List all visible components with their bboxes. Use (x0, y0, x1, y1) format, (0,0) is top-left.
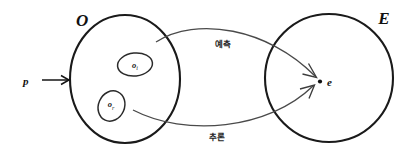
subset-o-i-label: oi (132, 60, 138, 72)
evidence-set-label: E (377, 9, 389, 28)
subset-o-r-subscript: r (112, 105, 115, 111)
diagram-canvas: --> O E e p oi or 예측 추론 (0, 0, 415, 155)
diagram-container: --> O E e p oi or 예측 추론 (0, 0, 415, 155)
evidence-point-dot (318, 79, 322, 83)
subset-o-i-subscript: i (136, 65, 138, 71)
input-label: p (22, 75, 29, 87)
prediction-edge-label: 예측 (215, 39, 231, 49)
inference-curve (133, 86, 313, 126)
subset-o-r-label: or (108, 99, 115, 111)
observation-set-outline (70, 15, 180, 143)
evidence-element-label: e (327, 76, 332, 88)
inference-edge-label: 추론 (209, 132, 225, 142)
observation-set-label: O (76, 11, 88, 30)
